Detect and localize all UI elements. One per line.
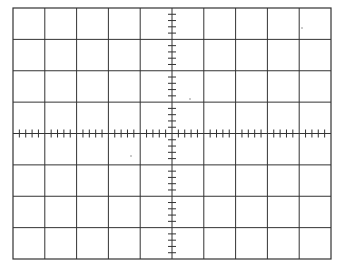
noise-dot bbox=[130, 155, 132, 157]
noise-dot bbox=[301, 27, 303, 29]
oscilloscope-graticule bbox=[0, 0, 339, 268]
noise-dot bbox=[189, 98, 191, 100]
